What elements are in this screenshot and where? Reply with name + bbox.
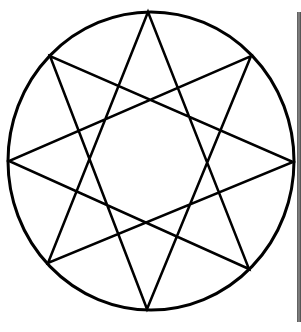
octagram-figure (0, 0, 301, 332)
eight-pointed-star (9, 12, 293, 309)
octagram-diagram (0, 0, 301, 332)
scan-edge-border (297, 12, 301, 322)
